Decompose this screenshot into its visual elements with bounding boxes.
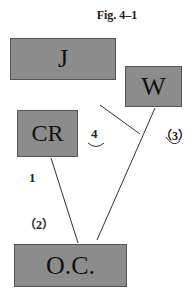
node-oc-label: O.C. xyxy=(46,251,95,281)
node-w-label: W xyxy=(141,72,166,102)
edge-label-4: 4 xyxy=(91,126,98,142)
node-w: W xyxy=(125,66,182,107)
edge-label-3: （3） xyxy=(160,126,190,144)
node-oc: O.C. xyxy=(14,244,127,287)
node-cr-label: CR xyxy=(31,120,63,147)
node-cr: CR xyxy=(17,110,78,157)
edge-label-2: （2） xyxy=(24,215,54,233)
node-j-label: J xyxy=(58,44,68,74)
node-j: J xyxy=(10,38,116,80)
edge-label-1: 1 xyxy=(29,170,36,186)
arc-4 xyxy=(88,143,104,147)
